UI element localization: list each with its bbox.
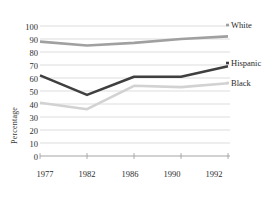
line-chart: Percentage 100 90 80 70 60 50 40 30 20 1… bbox=[0, 0, 275, 197]
legend-swatches bbox=[226, 25, 229, 83]
gridlines bbox=[40, 26, 230, 156]
series-line-white bbox=[40, 36, 228, 45]
series-lines bbox=[40, 36, 228, 109]
plot-area bbox=[0, 0, 275, 197]
series-line-hispanic bbox=[40, 66, 228, 95]
